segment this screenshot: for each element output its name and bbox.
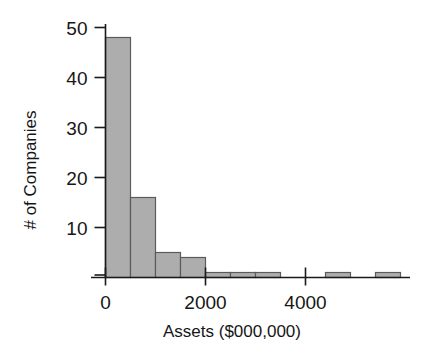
plot-area [106, 38, 401, 278]
histogram-chart: 1020304050 # of Companies 020004000 Asse… [0, 0, 423, 364]
histogram-bar [131, 198, 156, 278]
y-tick-label: 10 [66, 218, 87, 239]
histogram-bar [156, 253, 181, 278]
bars-group [106, 38, 401, 278]
x-tick-label: 4000 [284, 292, 326, 313]
histogram-bar [181, 258, 206, 278]
y-tick-label: 20 [66, 168, 87, 189]
x-tick-label: 0 [100, 292, 111, 313]
y-tick-label: 50 [66, 18, 87, 39]
x-tick-label: 2000 [184, 292, 226, 313]
x-axis-title: Assets ($000,000) [163, 322, 301, 341]
y-tick-label: 40 [66, 68, 87, 89]
x-axis: 020004000 Assets ($000,000) [91, 268, 410, 342]
y-tick-label: 30 [66, 118, 87, 139]
y-axis: 1020304050 # of Companies [21, 18, 106, 279]
y-axis-title: # of Companies [21, 110, 40, 229]
chart-page: 1020304050 # of Companies 020004000 Asse… [0, 0, 423, 364]
y-tick-group: 1020304050 [66, 18, 105, 276]
histogram-bar [106, 38, 131, 278]
